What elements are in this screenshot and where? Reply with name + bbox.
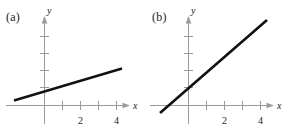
panel-b-y-axis-arrowhead (186, 16, 192, 24)
panel-b-y-axis-label: y (190, 5, 196, 16)
panel-b: (b) 2 4 x y (143, 0, 287, 133)
panel-b-data-line (160, 20, 267, 113)
panel-b-x-axis-label: x (276, 100, 282, 111)
panel-b-x-ticklabel-4: 4 (258, 115, 263, 126)
panel-a: (a) 2 4 x y (0, 0, 143, 133)
panel-a-x-ticklabel-4: 4 (114, 115, 119, 126)
panel-b-x-ticklabel-2: 2 (222, 115, 227, 126)
panel-b-plot: 2 4 x y (143, 0, 287, 133)
panel-a-x-axis-label: x (132, 100, 138, 111)
panel-a-data-line (14, 69, 122, 101)
panel-b-x-axis-arrowhead (267, 103, 275, 109)
panel-a-y-axis-arrowhead (42, 16, 48, 24)
panel-a-x-axis-arrowhead (123, 103, 131, 109)
panel-a-y-axis-label: y (46, 5, 52, 16)
panel-a-plot: 2 4 x y (0, 0, 143, 133)
panel-a-x-ticklabel-2: 2 (78, 115, 83, 126)
figure-root: (a) 2 4 x y (0, 0, 287, 133)
